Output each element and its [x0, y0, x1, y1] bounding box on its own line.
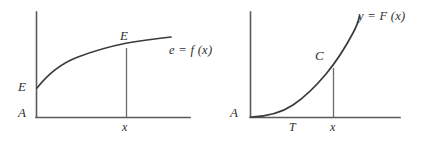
right-t-tick-label: T: [289, 121, 296, 133]
math-figure: E A E x e = f (x) A C T x y = F (x): [0, 0, 446, 141]
left-y-intercept-label: E: [18, 80, 26, 93]
convex-curve-plot: A C T x y = F (x): [223, 0, 446, 141]
right-curve-point-label: C: [315, 49, 324, 62]
left-curve-f-of-x: [37, 37, 171, 88]
right-x-tick-label: x: [330, 121, 335, 133]
right-curve-F-of-x: [251, 16, 360, 117]
left-curve-point-label: E: [120, 29, 128, 42]
left-function-label: e = f (x): [169, 44, 212, 57]
left-origin-label: A: [18, 106, 26, 119]
right-function-label: y = F (x): [358, 10, 406, 23]
concave-curve-plot: E A E x e = f (x): [0, 0, 223, 141]
left-x-tick-label: x: [122, 121, 127, 133]
right-origin-label: A: [230, 106, 238, 119]
left-plot-canvas: [0, 0, 223, 141]
